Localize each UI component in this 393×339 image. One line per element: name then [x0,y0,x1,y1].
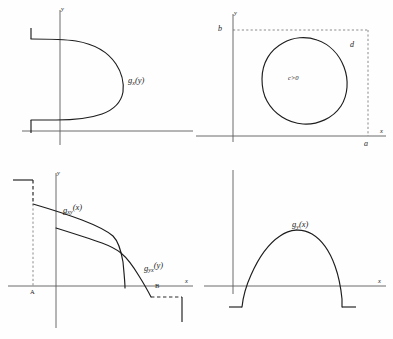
bound-label-a: a [364,140,368,148]
panel-bottom-left: y x gxy(x) gyx(y) A B [0,170,196,339]
axis-label-x-bottom-left: x [185,278,188,285]
axis-label-y-top-right: y [234,10,237,17]
figure-root: y gx(y) y x b d a c>0 [0,0,393,339]
bound-label-b: b [218,25,222,33]
curve-label-argument: (y) [135,75,144,85]
point-label-a: A [30,289,35,296]
point-label-b: B [155,283,159,290]
axis-label-x-bottom-right: x [378,278,381,285]
axis-label-x-top-right: x [380,128,383,135]
curve-label-gxy-of-x: gxy(x) [63,203,82,215]
bound-label-d: d [350,41,354,49]
curve-gxy-of-x [33,204,125,288]
curve-label-gx-of-y: gx(y) [128,76,144,86]
curve-gyx-of-y [56,228,151,297]
plot-top-left [0,0,196,170]
axis-label-y-top-left: y [61,6,64,13]
panel-top-left: y gx(y) [0,0,196,170]
axis-label-y-bottom-left: y [57,170,60,177]
curve-gy-of-x [242,230,342,307]
contour-level-curve [262,38,347,124]
curve-label-gy-of-x: gy(x) [292,220,308,230]
curve-label-gyx-of-y: gyx(y) [144,261,163,273]
plot-bottom-left [0,170,196,339]
curve-label-argument: (x) [299,219,308,229]
curve-label-argument: (y) [154,260,163,270]
curve-gx-of-y [31,39,123,120]
curve-label-argument: (x) [73,202,82,212]
region-label-c: c>0 [288,75,299,82]
panel-bottom-right: x gy(x) [196,170,393,339]
plot-bottom-right [196,170,393,339]
panel-top-right: y x b d a c>0 [196,0,393,170]
